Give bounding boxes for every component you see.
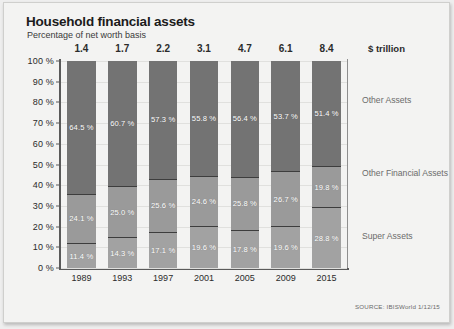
bar-total-value-label: 4.7 — [231, 43, 260, 54]
y-axis-tick-mark — [56, 164, 61, 165]
bar-segment-value-label: 60.7 % — [110, 119, 134, 128]
bar-segment[interactable]: 24.6 % — [190, 177, 219, 228]
stacked-bar[interactable]: 64.5 %24.1 %11.4 % — [67, 61, 96, 268]
gridline — [61, 268, 347, 269]
stacked-bar[interactable]: 56.4 %25.8 %17.8 % — [231, 61, 260, 268]
bar-total-value-label: 1.4 — [67, 43, 96, 54]
bar-total-value-label: 6.1 — [271, 43, 300, 54]
bar-total-value-label: 8.4 — [312, 43, 341, 54]
bar-segment-value-label: 51.4 % — [314, 109, 338, 118]
stacked-bar[interactable]: 57.3 %25.6 %17.1 % — [149, 61, 178, 268]
x-axis-tick-label: 1997 — [149, 273, 178, 283]
bar-segment[interactable]: 24.1 % — [67, 195, 96, 245]
bar-segment-value-label: 64.5 % — [69, 123, 93, 132]
source-note: SOURCE: IBISWorld 1/12/15 — [355, 303, 440, 310]
bar-segment-value-label: 14.3 % — [110, 249, 134, 258]
bar-segment-value-label: 25.0 % — [110, 208, 134, 217]
x-axis-tick-label: 1989 — [67, 273, 96, 283]
bar-segment-value-label: 55.8 % — [192, 114, 216, 123]
bar-segment-value-label: 28.8 % — [314, 234, 338, 243]
bar-segment-value-label: 19.6 % — [274, 243, 298, 252]
stacked-bar[interactable]: 53.7 %26.7 %19.6 % — [271, 61, 300, 268]
x-axis-tick-label: 2015 — [312, 273, 341, 283]
bar-segment-value-label: 56.4 % — [233, 114, 257, 123]
bar-total-value-label: 1.7 — [108, 43, 137, 54]
bar-segment[interactable]: 11.4 % — [67, 244, 96, 268]
y-axis-tick-mark — [56, 247, 61, 248]
bar-segment-value-label: 17.1 % — [151, 246, 175, 255]
bar-segment-value-label: 53.7 % — [274, 112, 298, 121]
stacked-bar[interactable]: 51.4 %19.8 %28.8 % — [312, 61, 341, 268]
y-axis-tick-mark — [56, 102, 61, 103]
stacked-bar[interactable]: 60.7 %25.0 %14.3 % — [108, 61, 137, 268]
bar-segment[interactable]: 19.8 % — [312, 167, 341, 208]
bar-segment-value-label: 25.6 % — [151, 201, 175, 210]
chart-screenshot: Household financial assets Percentage of… — [0, 0, 454, 329]
bar-segment-value-label: 17.8 % — [233, 245, 257, 254]
bar-segment[interactable]: 55.8 % — [190, 61, 219, 177]
y-axis-tick-mark — [56, 185, 61, 186]
bar-segment[interactable]: 19.6 % — [190, 227, 219, 268]
bar-segment[interactable]: 64.5 % — [67, 61, 96, 195]
y-axis-tick-mark — [56, 61, 61, 62]
bar-segment[interactable]: 28.8 % — [312, 208, 341, 268]
chart-subtitle: Percentage of net worth basis — [27, 30, 146, 40]
bar-segment-value-label: 26.7 % — [274, 195, 298, 204]
bar-segment-value-label: 57.3 % — [151, 115, 175, 124]
bar-segment[interactable]: 25.6 % — [149, 180, 178, 233]
bar-segment-value-label: 11.4 % — [70, 252, 94, 261]
bar-total-value-label: 3.1 — [190, 43, 219, 54]
bar-segment-value-label: 25.8 % — [233, 199, 257, 208]
bar-segment[interactable]: 56.4 % — [231, 61, 260, 178]
chart-title: Household financial assets — [26, 14, 195, 29]
x-axis-tick-label: 2009 — [271, 273, 300, 283]
bar-segment-value-label: 24.6 % — [192, 197, 216, 206]
plot-right-border — [347, 59, 348, 269]
y-axis-tick-mark — [56, 123, 61, 124]
x-axis-tick-label: 2001 — [190, 273, 219, 283]
y-axis-tick-mark — [56, 205, 61, 206]
bar-segment[interactable]: 57.3 % — [149, 61, 178, 180]
x-axis-tick-label: 1993 — [108, 273, 137, 283]
bar-segment[interactable]: 19.6 % — [271, 227, 300, 268]
chart-canvas: Household financial assets Percentage of… — [4, 3, 449, 322]
chart-frame: Household financial assets Percentage of… — [3, 2, 450, 323]
y-axis-tick-mark — [56, 226, 61, 227]
legend-label-super-assets: Super Assets — [362, 231, 448, 241]
bar-segment[interactable]: 17.1 % — [149, 233, 178, 268]
legend-label-other-assets: Other Assets — [362, 95, 448, 105]
y-axis-tick-mark — [56, 81, 61, 82]
plot-area: 100 %90 %80 %70 %60 %50 %40 %30 %20 %10 … — [61, 61, 347, 268]
bar-segment[interactable]: 53.7 % — [271, 61, 300, 172]
bar-segment-value-label: 19.6 % — [192, 243, 216, 252]
bar-segment[interactable]: 60.7 % — [108, 61, 137, 187]
bar-segment[interactable]: 25.0 % — [108, 187, 137, 239]
bar-segment[interactable]: 14.3 % — [108, 238, 137, 268]
legend-label-other-financial-assets: Other Financial Assets — [362, 168, 448, 178]
bar-segment[interactable]: 26.7 % — [271, 172, 300, 227]
y-axis-tick-mark — [56, 143, 61, 144]
bar-segment[interactable]: 51.4 % — [312, 61, 341, 167]
bar-total-value-label: 2.2 — [149, 43, 178, 54]
bar-segment-value-label: 24.1 % — [69, 214, 93, 223]
y-axis-tick-mark — [56, 268, 61, 269]
unit-label: $ trillion — [368, 43, 405, 54]
x-axis-tick-label: 2005 — [231, 273, 260, 283]
bar-segment[interactable]: 25.8 % — [231, 178, 260, 231]
bar-segment[interactable]: 17.8 % — [231, 231, 260, 268]
bar-segment-value-label: 19.8 % — [314, 183, 338, 192]
stacked-bar[interactable]: 55.8 %24.6 %19.6 % — [190, 61, 219, 268]
